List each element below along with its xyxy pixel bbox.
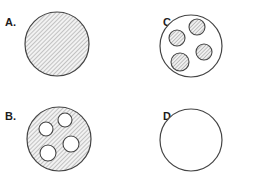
panel-d[interactable]: D. xyxy=(129,94,258,188)
panel-d-diagram xyxy=(129,94,258,188)
inner-circle-white xyxy=(58,113,72,127)
panel-c-diagram xyxy=(129,0,258,94)
inner-circle-white xyxy=(40,145,56,161)
figure-sheet: A. B. C. D. xyxy=(0,0,258,188)
inner-circle-white xyxy=(63,136,79,152)
outer-circle-empty xyxy=(160,109,222,171)
inner-circle-hatched xyxy=(196,44,212,60)
inner-circle-white xyxy=(39,122,53,136)
inner-circle-hatched xyxy=(189,19,205,35)
inner-circle-hatched xyxy=(171,53,189,71)
panel-a[interactable]: A. xyxy=(0,0,129,94)
outer-circle-hatched xyxy=(25,12,89,76)
panel-c[interactable]: C. xyxy=(129,0,258,94)
panel-a-diagram xyxy=(0,0,129,94)
panel-b[interactable]: B. xyxy=(0,94,129,188)
inner-circle-hatched xyxy=(169,30,185,46)
panel-b-diagram xyxy=(0,94,129,188)
